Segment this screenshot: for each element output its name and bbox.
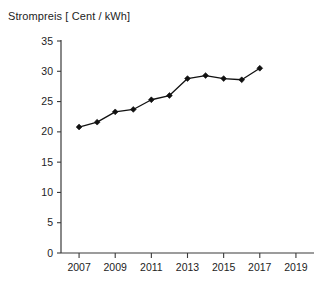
series-markers bbox=[76, 65, 263, 130]
svg-text:2007: 2007 bbox=[67, 261, 91, 273]
y-axis-ticks: 05101520253035 bbox=[41, 35, 61, 259]
svg-text:30: 30 bbox=[41, 65, 53, 77]
svg-text:2015: 2015 bbox=[212, 261, 236, 273]
svg-text:2009: 2009 bbox=[104, 261, 128, 273]
svg-text:35: 35 bbox=[41, 35, 53, 47]
svg-text:0: 0 bbox=[47, 247, 53, 259]
svg-text:2013: 2013 bbox=[176, 261, 200, 273]
svg-text:10: 10 bbox=[41, 186, 53, 198]
chart-container: Strompreis [ Cent / kWh] 05101520253035 … bbox=[0, 0, 334, 282]
svg-text:25: 25 bbox=[41, 95, 53, 107]
chart-plot-area: 05101520253035 2007200920112013201520172… bbox=[0, 0, 334, 282]
svg-text:5: 5 bbox=[47, 216, 53, 228]
svg-text:2017: 2017 bbox=[248, 261, 272, 273]
svg-text:2011: 2011 bbox=[140, 261, 163, 273]
svg-text:2019: 2019 bbox=[284, 261, 308, 273]
svg-text:15: 15 bbox=[41, 156, 53, 168]
x-axis-ticks: 2007200920112013201520172019 bbox=[67, 253, 307, 273]
svg-text:20: 20 bbox=[41, 125, 53, 137]
